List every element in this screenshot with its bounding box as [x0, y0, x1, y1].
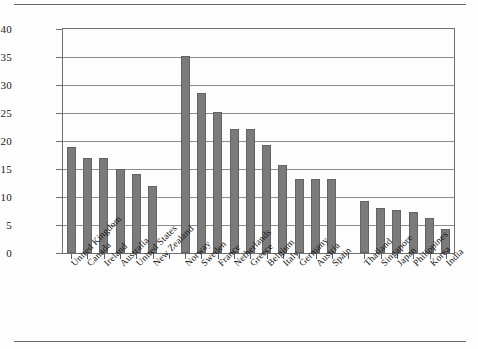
y-tick-label: 20 [0, 135, 12, 147]
y-tick-label: 5 [0, 219, 12, 231]
page-bottom-rule [14, 341, 466, 342]
chart-page: 0510152025303540 United KingdomCanadaIre… [0, 0, 478, 349]
y-tick-label: 15 [0, 163, 12, 175]
bar [67, 147, 76, 253]
bar [230, 129, 239, 253]
y-tick-label: 10 [0, 191, 12, 203]
bar [213, 112, 222, 253]
y-tick-label: 35 [0, 51, 12, 63]
y-tick-label: 0 [0, 247, 12, 259]
bar [197, 93, 206, 253]
bar [295, 179, 304, 253]
bar [246, 129, 255, 253]
y-tick-label: 40 [0, 23, 12, 35]
y-tick-label: 30 [0, 79, 12, 91]
page-top-rule [14, 4, 466, 5]
bar [360, 201, 369, 253]
y-tick-label: 25 [0, 107, 12, 119]
bar [116, 169, 125, 253]
